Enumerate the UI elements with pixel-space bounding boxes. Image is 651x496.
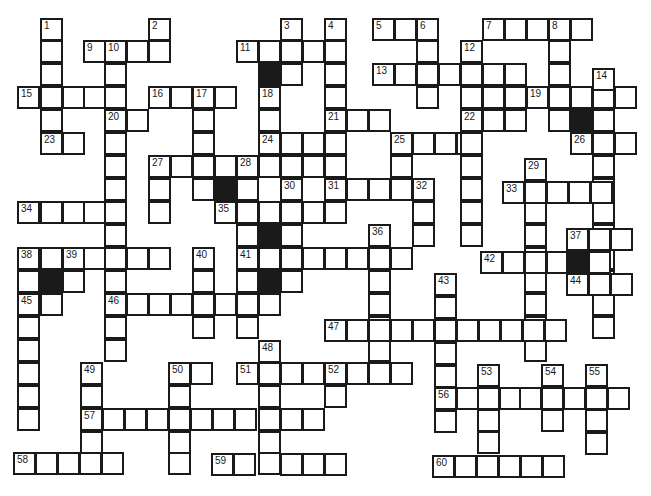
- crossword-cell[interactable]: [524, 251, 547, 274]
- crossword-cell[interactable]: [168, 385, 191, 408]
- crossword-cell[interactable]: [522, 319, 545, 342]
- crossword-cell[interactable]: [280, 247, 303, 270]
- crossword-cell[interactable]: [126, 109, 149, 132]
- crossword-cell[interactable]: [40, 86, 63, 109]
- crossword-cell[interactable]: [502, 251, 525, 274]
- numbered-cell-33[interactable]: 33: [502, 181, 525, 204]
- crossword-cell[interactable]: [214, 86, 237, 109]
- crossword-cell[interactable]: [592, 155, 615, 178]
- crossword-cell[interactable]: [368, 247, 391, 270]
- crossword-cell[interactable]: [234, 408, 257, 431]
- crossword-cell[interactable]: [17, 408, 40, 431]
- numbered-cell-48[interactable]: 48: [258, 340, 281, 363]
- crossword-cell[interactable]: [520, 455, 543, 478]
- crossword-cell[interactable]: [102, 408, 125, 431]
- crossword-cell[interactable]: [280, 63, 303, 86]
- numbered-cell-19[interactable]: 19: [526, 86, 549, 109]
- numbered-cell-9[interactable]: 9: [83, 40, 106, 63]
- crossword-cell[interactable]: [346, 247, 369, 270]
- numbered-cell-49[interactable]: 49: [80, 362, 103, 385]
- crossword-cell[interactable]: [280, 40, 303, 63]
- numbered-cell-36[interactable]: 36: [368, 224, 391, 247]
- crossword-cell[interactable]: [280, 155, 303, 178]
- numbered-cell-27[interactable]: 27: [148, 155, 171, 178]
- crossword-cell[interactable]: [148, 40, 171, 63]
- numbered-cell-47[interactable]: 47: [324, 319, 347, 342]
- crossword-cell[interactable]: [302, 155, 325, 178]
- crossword-cell[interactable]: [610, 228, 633, 251]
- numbered-cell-60[interactable]: 60: [432, 455, 455, 478]
- numbered-cell-18[interactable]: 18: [258, 86, 281, 109]
- crossword-cell[interactable]: [192, 293, 215, 316]
- crossword-cell[interactable]: [390, 178, 413, 201]
- numbered-cell-20[interactable]: 20: [104, 109, 127, 132]
- crossword-cell[interactable]: [519, 387, 542, 410]
- numbered-cell-46[interactable]: 46: [104, 293, 127, 316]
- crossword-cell[interactable]: [192, 155, 215, 178]
- crossword-cell[interactable]: [346, 319, 369, 342]
- crossword-cell[interactable]: [568, 181, 591, 204]
- crossword-cell[interactable]: [170, 155, 193, 178]
- crossword-cell[interactable]: [585, 432, 608, 455]
- crossword-cell[interactable]: [346, 362, 369, 385]
- numbered-cell-3[interactable]: 3: [280, 18, 303, 41]
- crossword-cell[interactable]: [526, 18, 549, 41]
- crossword-cell[interactable]: [477, 387, 500, 410]
- numbered-cell-16[interactable]: 16: [148, 86, 171, 109]
- numbered-cell-52[interactable]: 52: [324, 362, 347, 385]
- crossword-cell[interactable]: [546, 181, 569, 204]
- crossword-cell[interactable]: [456, 387, 479, 410]
- numbered-cell-5[interactable]: 5: [372, 18, 395, 41]
- crossword-cell[interactable]: [460, 178, 483, 201]
- crossword-cell[interactable]: [592, 316, 615, 339]
- crossword-cell[interactable]: [280, 270, 303, 293]
- crossword-cell[interactable]: [146, 408, 169, 431]
- crossword-cell[interactable]: [57, 452, 80, 475]
- crossword-cell[interactable]: [233, 453, 256, 476]
- crossword-cell[interactable]: [62, 201, 85, 224]
- crossword-cell[interactable]: [324, 201, 347, 224]
- crossword-cell[interactable]: [541, 409, 564, 432]
- crossword-cell[interactable]: [368, 339, 391, 362]
- numbered-cell-40[interactable]: 40: [192, 247, 215, 270]
- crossword-cell[interactable]: [585, 387, 608, 410]
- crossword-cell[interactable]: [17, 385, 40, 408]
- crossword-cell[interactable]: [368, 362, 391, 385]
- numbered-cell-38[interactable]: 38: [17, 247, 40, 270]
- crossword-cell[interactable]: [548, 109, 571, 132]
- crossword-cell[interactable]: [17, 270, 40, 293]
- crossword-cell[interactable]: [236, 270, 259, 293]
- numbered-cell-13[interactable]: 13: [372, 63, 395, 86]
- crossword-cell[interactable]: [607, 387, 630, 410]
- crossword-cell[interactable]: [280, 453, 303, 476]
- numbered-cell-28[interactable]: 28: [236, 155, 259, 178]
- crossword-cell[interactable]: [588, 251, 611, 274]
- crossword-cell[interactable]: [83, 86, 106, 109]
- crossword-cell[interactable]: [324, 453, 347, 476]
- crossword-cell[interactable]: [412, 132, 435, 155]
- numbered-cell-53[interactable]: 53: [477, 364, 500, 387]
- crossword-cell[interactable]: [482, 86, 505, 109]
- crossword-cell[interactable]: [212, 408, 235, 431]
- crossword-cell[interactable]: [40, 63, 63, 86]
- crossword-cell[interactable]: [346, 178, 369, 201]
- crossword-cell[interactable]: [258, 362, 281, 385]
- crossword-cell[interactable]: [40, 293, 63, 316]
- numbered-cell-1[interactable]: 1: [40, 18, 63, 41]
- crossword-cell[interactable]: [258, 247, 281, 270]
- numbered-cell-12[interactable]: 12: [460, 40, 483, 63]
- crossword-cell[interactable]: [40, 247, 63, 270]
- numbered-cell-29[interactable]: 29: [524, 158, 547, 181]
- crossword-cell[interactable]: [346, 109, 369, 132]
- crossword-cell[interactable]: [280, 132, 303, 155]
- crossword-cell[interactable]: [592, 293, 615, 316]
- crossword-cell[interactable]: [62, 270, 85, 293]
- crossword-cell[interactable]: [434, 319, 457, 342]
- crossword-cell[interactable]: [324, 155, 347, 178]
- crossword-cell[interactable]: [258, 408, 281, 431]
- numbered-cell-7[interactable]: 7: [482, 18, 505, 41]
- crossword-cell[interactable]: [434, 410, 457, 433]
- crossword-cell[interactable]: [504, 63, 527, 86]
- crossword-cell[interactable]: [280, 362, 303, 385]
- crossword-cell[interactable]: [588, 273, 611, 296]
